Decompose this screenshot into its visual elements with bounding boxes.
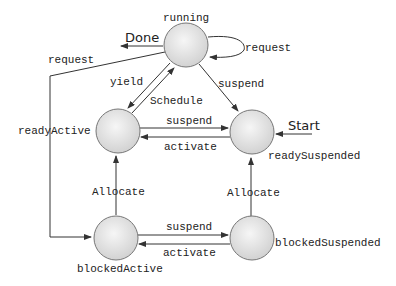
label-ready-activate: activate	[164, 141, 217, 153]
label-blocked-activate: activate	[163, 247, 216, 259]
label-schedule: Schedule	[150, 95, 203, 107]
state-ready-active	[96, 109, 140, 153]
label-running: running	[163, 12, 209, 24]
label-start: Start	[288, 118, 320, 133]
state-diagram: running readyActive readySuspended block…	[0, 0, 396, 286]
label-done: Done	[125, 30, 159, 45]
state-blocked-active	[94, 216, 138, 260]
state-blocked-suspended	[230, 216, 274, 260]
label-blocked-active: blockedActive	[77, 263, 163, 275]
label-running-suspend: suspend	[218, 78, 264, 90]
label-ready-suspend: suspend	[166, 115, 212, 127]
label-blocked-suspended: blockedSuspended	[275, 237, 381, 249]
state-running	[164, 23, 208, 67]
label-ready-suspended: readySuspended	[268, 150, 360, 162]
label-request-blocked: request	[48, 54, 94, 66]
label-allocate-left: Allocate	[92, 186, 145, 198]
label-allocate-right: Allocate	[227, 187, 280, 199]
label-blocked-suspend: suspend	[166, 221, 212, 233]
state-ready-suspended	[230, 110, 274, 154]
label-yield: yield	[110, 76, 143, 88]
edge-request-self	[208, 36, 244, 57]
label-ready-active: readyActive	[18, 125, 91, 137]
label-request-self: request	[245, 42, 291, 54]
